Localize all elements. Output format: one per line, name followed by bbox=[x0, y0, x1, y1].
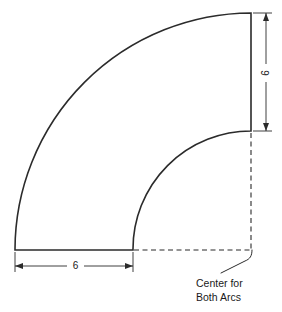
figure-root: 6 6 Center for Both Arcs bbox=[0, 0, 282, 312]
center-note-line1: Center for bbox=[196, 277, 243, 289]
center-leader-line bbox=[221, 250, 252, 273]
vertical-dim-arrow-top bbox=[263, 13, 269, 21]
vertical-dim-label: 6 bbox=[260, 70, 271, 76]
horizontal-dim-label: 6 bbox=[73, 260, 79, 271]
center-note-line2: Both Arcs bbox=[196, 291, 241, 303]
quarter-annulus-outline bbox=[15, 13, 251, 250]
geometry-diagram: 6 6 Center for Both Arcs bbox=[0, 0, 282, 312]
horizontal-dim-arrow-left bbox=[15, 263, 23, 269]
vertical-dim-arrow-bottom bbox=[263, 123, 269, 131]
horizontal-dim-arrow-right bbox=[125, 263, 133, 269]
